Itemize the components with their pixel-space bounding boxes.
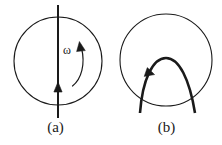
figure-panel-b: (b) bbox=[111, 0, 222, 145]
trajectory-arrowhead-icon bbox=[144, 68, 154, 77]
figure-panel-a: ω (a) bbox=[0, 0, 111, 145]
figure-root: ω (a) (b) bbox=[0, 0, 222, 145]
rotation-axis-arrowhead-icon bbox=[54, 82, 62, 92]
omega-label: ω bbox=[59, 44, 75, 57]
panel-a-caption: (a) bbox=[0, 118, 111, 136]
angular-velocity-arrowhead-icon bbox=[77, 42, 86, 52]
panel-b-caption: (b) bbox=[111, 118, 222, 136]
disk-circle-b bbox=[120, 14, 212, 106]
trajectory-arc-path bbox=[140, 58, 195, 113]
